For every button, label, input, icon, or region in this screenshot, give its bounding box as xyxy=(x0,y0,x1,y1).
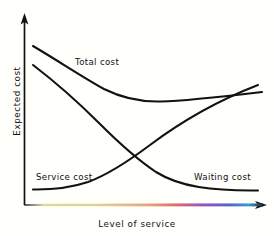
series-label-waiting-cost: Waiting cost xyxy=(194,172,251,182)
x-axis-label: Level of service xyxy=(0,219,274,229)
x-axis xyxy=(25,201,268,209)
series-label-total-cost: Total cost xyxy=(75,57,119,67)
y-axis-label: Expected cost xyxy=(12,46,22,156)
series-label-service-cost: Service cost xyxy=(36,172,93,182)
x-axis-gradient-overlay xyxy=(25,203,263,206)
cost-vs-service-chart: Total cost Service cost Waiting cost Lev… xyxy=(0,0,274,236)
chart-canvas xyxy=(0,0,274,236)
